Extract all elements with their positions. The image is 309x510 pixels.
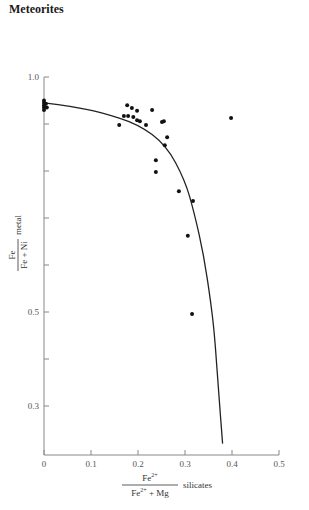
data-point — [163, 143, 167, 147]
data-point — [135, 109, 139, 113]
data-point — [154, 170, 158, 174]
data-point — [44, 102, 48, 106]
svg-text:silicates: silicates — [183, 480, 212, 490]
data-point — [125, 103, 129, 107]
fit-curve-line — [44, 103, 223, 444]
x-axis-label: Fe2+Fe2+ + Mgsilicates — [122, 472, 212, 498]
data-point — [144, 123, 148, 127]
svg-text:Fe2+: Fe2+ — [142, 472, 158, 483]
data-point — [117, 123, 121, 127]
data-point — [186, 234, 190, 238]
axes: 1.00.50.300.10.20.30.40.5 — [28, 72, 285, 469]
svg-text:metal: metal — [13, 215, 23, 235]
data-point — [162, 119, 166, 123]
x-tick-label: 0.2 — [132, 459, 143, 469]
svg-text:Fe + Ni: Fe + Ni — [19, 241, 29, 269]
data-point — [165, 135, 169, 139]
data-points — [42, 99, 233, 316]
data-point — [177, 189, 181, 193]
x-tick-label: 0 — [42, 459, 47, 469]
y-tick-label: 0.5 — [28, 307, 40, 317]
data-point — [122, 114, 126, 118]
data-point — [45, 106, 49, 110]
data-point — [190, 312, 194, 316]
data-point — [130, 106, 134, 110]
data-point — [229, 116, 233, 120]
data-point — [126, 114, 130, 118]
x-tick-label: 0.4 — [226, 459, 238, 469]
data-point — [154, 158, 158, 162]
data-point — [191, 199, 195, 203]
x-tick-label: 0.5 — [273, 459, 285, 469]
data-point — [150, 108, 154, 112]
data-point — [138, 119, 142, 123]
svg-text:Fe2+ + Mg: Fe2+ + Mg — [131, 487, 169, 498]
fit-curve — [44, 103, 223, 444]
y-axis-label: FeFe + Nimetal — [7, 215, 29, 271]
scatter-chart: 1.00.50.300.10.20.30.40.5 Fe2+Fe2+ + Mgs… — [0, 0, 309, 510]
x-tick-label: 0.3 — [179, 459, 191, 469]
y-tick-label: 0.3 — [28, 401, 40, 411]
svg-text:Fe: Fe — [7, 250, 17, 259]
x-tick-label: 0.1 — [85, 459, 96, 469]
data-point — [131, 115, 135, 119]
y-tick-label: 1.0 — [28, 72, 40, 82]
